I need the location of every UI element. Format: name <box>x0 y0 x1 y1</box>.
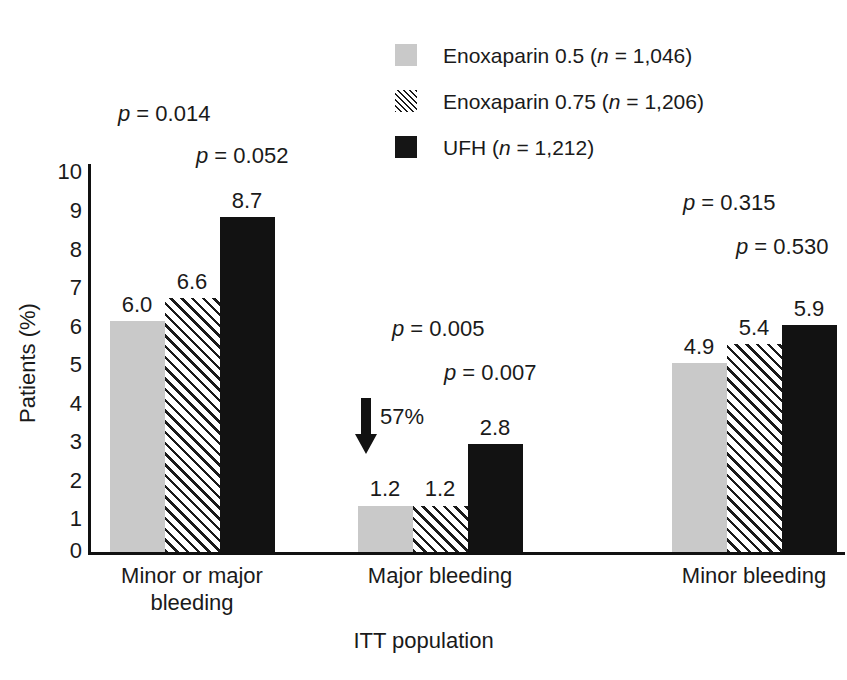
bar-value-g2-s2: 1.2 <box>410 478 470 500</box>
bar-g1-enoxaparin05[interactable] <box>110 321 165 552</box>
bar-g3-enoxaparin075[interactable] <box>727 344 782 552</box>
down-arrow-icon <box>355 398 377 454</box>
x-category-label-line2: bleeding <box>92 589 292 616</box>
bar-value-g2-s1: 1.2 <box>355 478 415 500</box>
bar-value-g1-s3: 8.7 <box>217 190 277 212</box>
pvalue-group2-enoxaparin05: p = 0.005 <box>392 318 484 340</box>
reduction-annotation: 57% <box>355 398 424 454</box>
x-category-label-line1: Minor or major <box>92 562 292 589</box>
reduction-percentage-label: 57% <box>380 406 424 428</box>
bar-value-g1-s2: 6.6 <box>162 271 222 293</box>
x-category-label-line1: Major bleeding <box>340 562 540 589</box>
x-axis-title: ITT population <box>0 628 847 654</box>
x-category-label-major-bleeding: Major bleeding <box>340 562 540 589</box>
bar-g2-enoxaparin05[interactable] <box>358 506 413 552</box>
bar-value-g1-s1: 6.0 <box>107 294 167 316</box>
bar-value-g3-s1: 4.9 <box>669 336 729 358</box>
pvalue-group1-enoxaparin05: p = 0.014 <box>118 103 210 125</box>
bar-g2-enoxaparin075[interactable] <box>413 506 468 552</box>
bar-g1-enoxaparin075[interactable] <box>165 298 220 552</box>
bar-value-g3-s2: 5.4 <box>724 317 784 339</box>
bar-value-g3-s3: 5.9 <box>779 298 839 320</box>
pvalue-group3-enoxaparin05: p = 0.315 <box>683 192 775 214</box>
x-category-label-minor-or-major-bleeding: Minor or major bleeding <box>92 562 292 616</box>
bar-g3-enoxaparin05[interactable] <box>672 363 727 552</box>
bar-g1-ufh[interactable] <box>220 217 275 552</box>
bar-g2-ufh[interactable] <box>468 444 523 552</box>
bar-g3-ufh[interactable] <box>782 325 837 552</box>
bar-value-g2-s3: 2.8 <box>465 417 525 439</box>
x-category-label-line1: Minor bleeding <box>654 562 847 589</box>
pvalue-group3-enoxaparin075: p = 0.530 <box>736 236 828 258</box>
pvalue-group2-enoxaparin075: p = 0.007 <box>444 362 536 384</box>
bar-chart-figure: Enoxaparin 0.5 (n = 1,046) Enoxaparin 0.… <box>0 0 847 680</box>
x-category-label-minor-bleeding: Minor bleeding <box>654 562 847 589</box>
pvalue-group1-enoxaparin075: p = 0.052 <box>196 145 288 167</box>
